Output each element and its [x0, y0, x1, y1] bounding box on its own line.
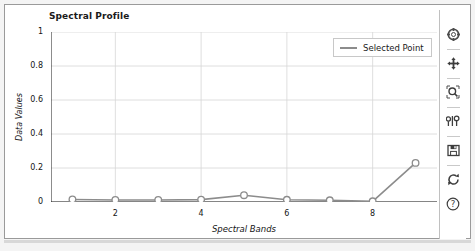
- legend-label: Selected Point: [363, 43, 424, 53]
- x-tick-label: 4: [186, 209, 216, 218]
- svg-text:?: ?: [451, 199, 456, 209]
- toolbar-divider: [447, 49, 460, 50]
- chart-canvas: [51, 32, 437, 202]
- window-bottom-edge: [4, 240, 471, 243]
- toolbar-divider: [447, 165, 460, 166]
- x-tick-label: 2: [100, 209, 130, 218]
- toolbar-divider: [447, 78, 460, 79]
- save-icon[interactable]: [442, 139, 464, 161]
- window-frame: Spectral Profile 00.20.40.60.812468Data …: [4, 4, 471, 239]
- zoom-icon[interactable]: [442, 81, 464, 103]
- pan-icon[interactable]: [442, 52, 464, 74]
- x-tick-label: 6: [272, 209, 302, 218]
- y-tick-label: 0: [13, 197, 43, 206]
- y-tick-label: 0.8: [13, 61, 43, 70]
- home-icon[interactable]: [442, 23, 464, 45]
- navigation-toolbar: ?: [439, 10, 466, 239]
- toolbar-divider: [447, 136, 460, 137]
- toolbar-divider: [447, 107, 460, 108]
- y-tick-label: 1: [13, 27, 43, 36]
- spectral-profile-window: Spectral Profile 00.20.40.60.812468Data …: [0, 0, 475, 251]
- chart-title: Spectral Profile: [49, 11, 129, 21]
- chart-figure: Spectral Profile 00.20.40.60.812468Data …: [5, 5, 442, 238]
- legend-line-swatch: [340, 47, 357, 49]
- plot-axes: 00.20.40.60.812468Data ValuesSpectral Ba…: [51, 32, 437, 202]
- x-tick-label: 8: [358, 209, 388, 218]
- refresh-icon[interactable]: [442, 168, 464, 190]
- y-axis-label: Data Values: [15, 93, 24, 141]
- chart-legend: Selected Point: [333, 38, 432, 57]
- x-axis-label: Spectral Bands: [51, 224, 437, 234]
- help-icon[interactable]: ?: [442, 193, 464, 215]
- configure-subplots-icon[interactable]: [442, 110, 464, 132]
- y-tick-label: 0.2: [13, 163, 43, 172]
